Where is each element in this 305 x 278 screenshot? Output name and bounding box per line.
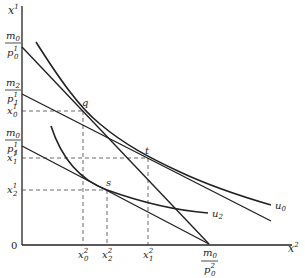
indifference-curve-diagram: q t s u0 u2 x1 x2 0 m0 p10 m2 p11 x10 m0… [0,0,305,278]
origin-label: 0 [11,240,17,251]
curve-u2 [51,126,208,213]
svg-text:m0: m0 [6,127,20,140]
svg-text:p10: p10 [7,45,19,61]
curve-u0-label: u0 [275,200,286,213]
svg-text:x11: x11 [7,150,18,166]
svg-text:x21: x21 [143,247,154,263]
point-q-label: q [82,97,88,108]
budget-line-m0-p1 [22,146,209,244]
budget-line-m0-p0 [22,47,209,244]
x-axis-label: x2 [288,241,299,255]
svg-text:x22: x22 [102,247,113,263]
svg-text:x10: x10 [7,103,18,119]
x-tick-x22: x22 [102,247,113,263]
point-t-label: t [145,145,150,156]
y-tick-m0-p01: m0 p10 [5,30,21,61]
y-tick-x21: x12 [7,182,18,198]
svg-text:x20: x20 [78,247,89,263]
indifference-curves [36,42,271,213]
y-tick-x01: x10 [7,103,18,119]
y-tick-x11: x11 [7,150,18,166]
svg-text:m0: m0 [203,247,217,260]
svg-text:p20: p20 [204,262,216,278]
x-tick-m0-p02: m0 p20 [201,247,218,278]
svg-text:m0: m0 [6,30,20,43]
y-axis-label: x1 [8,3,19,17]
svg-text:m2: m2 [6,77,20,90]
axes [22,6,292,245]
curve-u0 [36,42,271,205]
curve-u2-label: u2 [212,208,223,221]
x-tick-x02: x20 [78,247,89,263]
x-tick-x12: x21 [143,247,154,263]
point-s-label: s [106,177,111,188]
svg-text:x12: x12 [7,182,18,198]
